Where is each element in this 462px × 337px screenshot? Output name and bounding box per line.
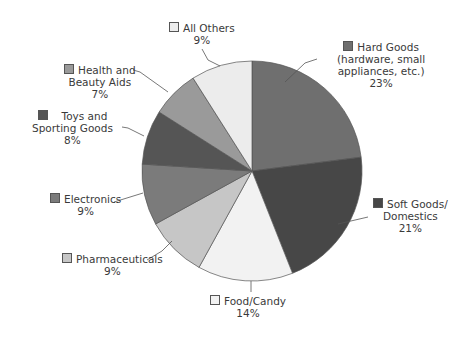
label-electronics: Electronics 9% [50, 193, 121, 217]
label-pharma: Pharmaceuticals 9% [62, 253, 163, 277]
swatch-health [64, 64, 74, 74]
label-text: Sporting Goods [32, 122, 113, 134]
label-hard-goods: Hard Goods (hardware, small appliances, … [337, 41, 425, 89]
label-food: Food/Candy 14% [210, 295, 286, 319]
swatch-toys [38, 110, 48, 120]
label-text: Electronics [64, 193, 121, 205]
label-pct: 9% [62, 265, 163, 277]
swatch-others [169, 22, 179, 32]
label-text: Domestics [373, 210, 448, 222]
leader-health [133, 70, 168, 92]
label-pct: 9% [169, 34, 235, 46]
label-text: Hard Goods [357, 41, 419, 53]
swatch-electronics [50, 193, 60, 203]
swatch-hard-goods [343, 41, 353, 51]
label-pct: 21% [373, 222, 448, 234]
label-pct: 23% [337, 77, 425, 89]
swatch-food [210, 295, 220, 305]
label-text: Beauty Aids [64, 76, 136, 88]
label-text: Food/Candy [224, 295, 286, 307]
label-pct: 9% [50, 205, 121, 217]
leader-others [202, 49, 220, 66]
label-text: All Others [183, 22, 235, 34]
swatch-pharma [62, 253, 72, 263]
label-others: All Others 9% [169, 22, 235, 46]
label-text: appliances, etc.) [337, 65, 425, 77]
label-text: Soft Goods/ [387, 198, 448, 210]
label-text: Pharmaceuticals [76, 253, 163, 265]
label-health: Health and Beauty Aids 7% [64, 64, 136, 100]
leader-toys [122, 127, 144, 136]
label-toys: Toys and Sporting Goods 8% [32, 110, 113, 146]
label-pct: 8% [32, 134, 113, 146]
label-text: Toys and [62, 110, 108, 122]
label-soft-goods: Soft Goods/ Domestics 21% [373, 198, 448, 234]
pie-slices [142, 61, 362, 281]
label-pct: 14% [210, 307, 286, 319]
label-pct: 7% [64, 88, 136, 100]
swatch-soft-goods [373, 198, 383, 208]
label-text: (hardware, small [337, 53, 425, 65]
label-text: Health and [78, 64, 136, 76]
